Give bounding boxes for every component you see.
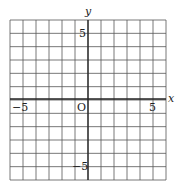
x-tick-label-neg5: −5 xyxy=(12,101,28,114)
origin-label: O xyxy=(77,101,86,114)
x-axis-label: x xyxy=(168,92,175,105)
y-tick-label-5: 5 xyxy=(79,27,86,40)
y-tick-label-neg5: −5 xyxy=(72,160,88,173)
x-tick-label-5: 5 xyxy=(149,101,156,114)
coordinate-grid: x y O −5 5 5 −5 xyxy=(0,0,187,188)
y-axis-label: y xyxy=(84,5,92,18)
